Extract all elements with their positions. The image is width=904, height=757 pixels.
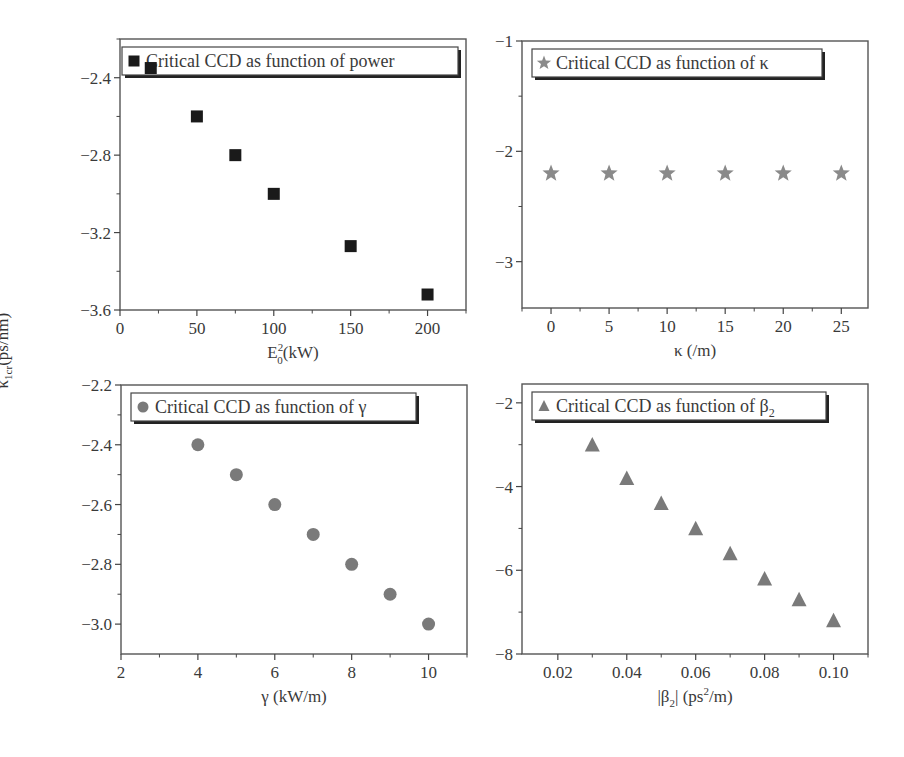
panel-beta2: 0.020.040.060.080.10−2−4−6−8|β2| (ps2/m)… [495, 384, 868, 709]
x-axis-label: γ (kW/m) [260, 687, 327, 706]
data-point-star-icon [601, 164, 618, 180]
legend-label: Critical CCD as function of power [146, 51, 394, 71]
x-tick-label: 20 [775, 317, 792, 336]
x-axis-label: E20(kW) [267, 341, 318, 366]
plot-frame [120, 39, 466, 310]
data-point-square-icon [229, 149, 241, 161]
y-tick-label: −3.2 [80, 224, 111, 243]
y-tick-label: −2.2 [81, 376, 112, 395]
data-point-square-icon [345, 240, 357, 252]
x-tick-label: 0.06 [681, 663, 711, 682]
x-tick-label: 10 [659, 317, 676, 336]
data-point-square-icon [268, 188, 280, 200]
data-point-circle-icon [191, 438, 204, 451]
data-point-circle-icon [422, 618, 435, 631]
figure: 050100150200−2.4−2.8−3.2−3.6E20(kW)Criti… [0, 0, 904, 757]
data-point-triangle-icon [826, 613, 841, 628]
ylabel-kappa: κ [0, 380, 12, 389]
x-tick-label: 15 [717, 317, 734, 336]
y-tick-label: −2 [495, 142, 513, 161]
y-tick-label: −2 [495, 394, 513, 413]
ylabel-subscript: 1cr [2, 366, 14, 380]
data-point-star-icon [659, 164, 676, 180]
y-tick-label: −8 [495, 645, 513, 664]
x-tick-label: 100 [261, 319, 287, 338]
y-tick-label: −2.4 [81, 436, 112, 455]
y-tick-label: −4 [495, 478, 514, 497]
y-tick-label: −3.0 [81, 615, 112, 634]
y-tick-label: −1 [495, 32, 513, 51]
y-tick-label: −2.8 [81, 555, 112, 574]
y-tick-label: −2.6 [81, 496, 112, 515]
x-tick-label: 0.10 [819, 663, 849, 682]
x-tick-label: 25 [833, 317, 850, 336]
data-point-circle-icon [268, 498, 281, 511]
data-point-star-icon [775, 164, 792, 180]
data-point-star-icon [833, 164, 850, 180]
data-point-triangle-icon [619, 470, 634, 485]
data-point-triangle-icon [688, 521, 703, 536]
x-tick-label: 6 [271, 663, 280, 682]
legend-label: Critical CCD as function of γ [155, 397, 366, 417]
x-tick-label: 5 [605, 317, 614, 336]
data-point-star-icon [542, 164, 559, 180]
y-tick-label: −3.6 [80, 301, 111, 320]
x-tick-label: 4 [194, 663, 203, 682]
x-axis-label: |β2| (ps2/m) [657, 685, 732, 709]
panel-gamma: 246810−2.2−2.4−2.6−2.8−3.0γ (kW/m)Critic… [81, 376, 467, 706]
plot-frame [522, 384, 868, 654]
data-point-square-icon [191, 110, 203, 122]
x-tick-label: 0.02 [543, 663, 573, 682]
x-tick-label: 10 [420, 663, 437, 682]
x-tick-label: 0 [547, 317, 556, 336]
ylabel-unit: (ps/nm) [0, 313, 12, 366]
data-point-triangle-icon [654, 496, 669, 511]
data-point-circle-icon [384, 588, 397, 601]
y-tick-label: −2.8 [80, 146, 111, 165]
legend-square-icon [129, 56, 140, 67]
x-axis-label: κ (/m) [674, 341, 716, 360]
x-tick-label: 200 [415, 319, 441, 338]
x-tick-label: 0 [116, 319, 125, 338]
data-point-triangle-icon [723, 546, 738, 561]
data-point-triangle-icon [757, 571, 772, 586]
x-tick-label: 50 [188, 319, 205, 338]
y-tick-label: −3 [495, 253, 513, 272]
data-point-square-icon [422, 289, 434, 301]
y-tick-label: −2.4 [80, 69, 111, 88]
panel-power: 050100150200−2.4−2.8−3.2−3.6E20(kW)Criti… [80, 39, 466, 366]
legend-circle-icon [138, 402, 149, 413]
data-point-circle-icon [345, 558, 358, 571]
data-point-star-icon [717, 164, 734, 180]
x-tick-label: 0.08 [750, 663, 780, 682]
legend-label: Critical CCD as function of κ [556, 53, 769, 73]
data-point-triangle-icon [792, 592, 807, 607]
shared-y-axis-label: κ1cr(ps/nm) [0, 313, 14, 389]
x-tick-label: 0.04 [612, 663, 642, 682]
plot-frame [522, 41, 868, 308]
y-tick-label: −6 [495, 561, 513, 580]
data-point-circle-icon [307, 528, 320, 541]
data-point-square-icon [145, 62, 157, 74]
chart-grid-2x2: 050100150200−2.4−2.8−3.2−3.6E20(kW)Criti… [0, 0, 904, 757]
data-point-circle-icon [230, 468, 243, 481]
plot-frame [121, 385, 467, 654]
panel-kappa: 0510152025−1−2−3κ (/m)Critical CCD as fu… [495, 32, 868, 360]
x-tick-label: 150 [338, 319, 364, 338]
data-point-triangle-icon [585, 437, 600, 452]
x-tick-label: 2 [117, 663, 126, 682]
x-tick-label: 8 [347, 663, 356, 682]
